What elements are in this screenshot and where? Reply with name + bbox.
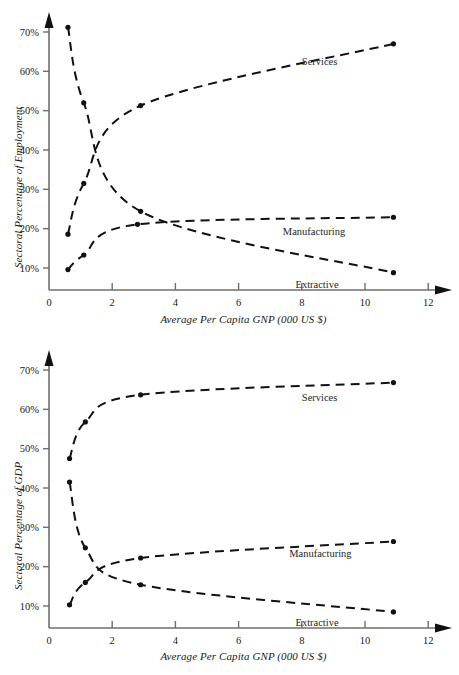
data-point-marker (81, 181, 86, 186)
data-point-marker (83, 419, 88, 424)
data-point-marker (138, 582, 143, 587)
chart-panel-employment: 10%20%30%40%50%60%70%024681012ServicesMa… (0, 0, 459, 338)
y-axis-tick-label: 60% (20, 404, 40, 415)
series-label-manufacturing: Manufacturing (289, 548, 352, 559)
y-axis-label: Sectoral Percentage of Employment (12, 107, 24, 268)
x-axis-tick-label: 8 (299, 297, 304, 308)
y-axis-tick-label: 60% (20, 66, 40, 77)
y-axis-label: Sectoral Percentage of GDP (12, 462, 24, 590)
y-axis-arrow-icon (45, 350, 54, 366)
series-label-services: Services (302, 56, 338, 67)
data-point-marker (67, 602, 72, 607)
data-point-marker (67, 456, 72, 461)
series-label-services: Services (302, 392, 338, 403)
series-line-services (68, 44, 393, 234)
x-axis-label: Average Per Capita GNP (000 US $) (14, 313, 459, 325)
series-line-services (70, 383, 394, 459)
x-axis-label: Average Per Capita GNP (000 US $) (14, 650, 459, 662)
series-label-extractive: Extractive (295, 617, 338, 628)
data-point-marker (138, 103, 143, 108)
data-point-marker (138, 209, 143, 214)
y-axis-tick-label: 50% (20, 443, 40, 454)
series-label-manufacturing: Manufacturing (283, 226, 346, 237)
data-point-marker (135, 222, 140, 227)
x-axis-tick-label: 8 (299, 635, 304, 646)
x-axis-tick-label: 2 (110, 297, 115, 308)
x-axis-tick-label: 0 (46, 635, 51, 646)
chart-panel-gdp: 10%20%30%40%50%60%70%024681012ServicesMa… (0, 338, 459, 675)
data-point-marker (65, 267, 70, 272)
data-point-marker (83, 580, 88, 585)
data-point-marker (83, 545, 88, 550)
y-axis-arrow-icon (45, 12, 54, 28)
x-axis-tick-label: 12 (423, 635, 434, 646)
x-axis-tick-label: 10 (360, 297, 371, 308)
x-axis-tick-label: 4 (173, 635, 179, 646)
data-point-marker (391, 215, 396, 220)
data-point-marker (391, 539, 396, 544)
x-axis-tick-label: 6 (236, 297, 241, 308)
data-point-marker (391, 270, 396, 275)
y-axis-tick-label: 70% (20, 365, 40, 376)
employment-plot-area: 10%20%30%40%50%60%70%024681012ServicesMa… (0, 0, 459, 338)
data-point-marker (81, 100, 86, 105)
data-point-marker (65, 25, 70, 30)
y-axis-tick-label: 70% (20, 27, 40, 38)
series-label-extractive: Extractive (295, 279, 338, 290)
x-axis-tick-label: 2 (110, 635, 115, 646)
x-axis-arrow-icon (435, 624, 452, 633)
gdp-plot-area: 10%20%30%40%50%60%70%024681012ServicesMa… (0, 338, 459, 675)
data-point-marker (138, 555, 143, 560)
x-axis-tick-label: 4 (173, 297, 179, 308)
data-point-marker (391, 41, 396, 46)
data-point-marker (138, 392, 143, 397)
x-axis-tick-label: 6 (236, 635, 241, 646)
data-point-marker (67, 480, 72, 485)
x-axis-tick-label: 10 (360, 635, 371, 646)
data-point-marker (391, 380, 396, 385)
x-axis-tick-label: 0 (46, 297, 51, 308)
x-axis-tick-label: 12 (423, 297, 434, 308)
data-point-marker (65, 232, 70, 237)
data-point-marker (81, 252, 86, 257)
data-point-marker (391, 609, 396, 614)
y-axis-tick-label: 10% (20, 601, 40, 612)
x-axis-arrow-icon (435, 286, 452, 295)
